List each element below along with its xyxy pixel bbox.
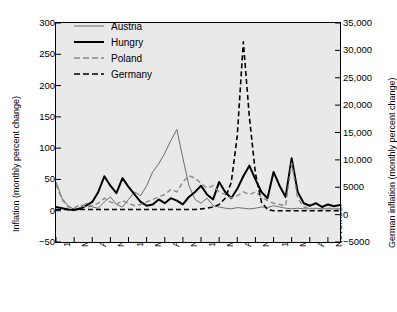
legend-item-poland: Poland xyxy=(74,50,204,66)
y-tick-label-right: 20,000 xyxy=(343,100,372,110)
legend-label: Hungry xyxy=(111,37,143,48)
legend-label: Germany xyxy=(111,69,152,80)
y-tick-label-right: 35,000 xyxy=(343,18,372,28)
y-tick-label-right: 10,000 xyxy=(343,155,372,165)
series-line-austria xyxy=(56,129,340,209)
y-tick-label-left: 50 xyxy=(44,174,55,184)
y-tick-label-left: 100 xyxy=(39,143,55,153)
legend-swatch-icon xyxy=(74,69,104,79)
legend-swatch-icon xyxy=(74,53,104,63)
y-tick-label-left: 200 xyxy=(39,81,55,91)
y-tick-label-right: 30,000 xyxy=(343,45,372,55)
legend-label: Poland xyxy=(111,53,142,64)
legend: AustriaHungryPolandGermany xyxy=(74,18,204,82)
y-tick-label-left: 300 xyxy=(39,18,55,28)
y-tick-label-right: 15,000 xyxy=(343,128,372,138)
y-tick-label-right: 25,000 xyxy=(343,73,372,83)
y-axis-left-title: Inflation (monthly percent change) xyxy=(11,96,21,232)
y-tick-label-right: −5000 xyxy=(343,237,370,247)
legend-item-austria: Austria xyxy=(74,18,204,34)
y-tick-label-left: 250 xyxy=(39,49,55,59)
y-tick-label-right: 5000 xyxy=(343,182,364,192)
y-tick-label-left: −50 xyxy=(39,237,55,247)
y-tick-label-left: 150 xyxy=(39,112,55,122)
y-axis-right-title: German inflation (monthly percent change… xyxy=(387,77,397,248)
legend-label: Austria xyxy=(111,21,142,32)
legend-swatch-icon xyxy=(74,37,104,47)
legend-item-germany: Germany xyxy=(74,66,204,82)
legend-swatch-icon xyxy=(74,21,104,31)
legend-item-hungry: Hungry xyxy=(74,34,204,50)
